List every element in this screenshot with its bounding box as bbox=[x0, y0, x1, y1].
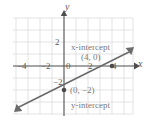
y-intercept-coordinates: (0, −2) bbox=[70, 86, 95, 95]
x-intercept-coordinates: (4, 0) bbox=[81, 53, 101, 62]
y-tick-label-neg2: −2 bbox=[53, 78, 63, 87]
y-axis-label: y bbox=[65, 2, 69, 12]
y-intercept-marker bbox=[62, 88, 67, 93]
x-axis bbox=[13, 63, 140, 70]
y-tick-label-pos2: 2 bbox=[55, 38, 60, 47]
x-intercept-label: x-intercept bbox=[71, 43, 110, 52]
x-tick-label-neg2: −2 bbox=[41, 62, 51, 71]
graph-figure: −4 −2 0 2 4 2 −2 x y x-intercept (4, 0) … bbox=[0, 0, 149, 125]
x-tick-label-pos2: 2 bbox=[88, 62, 93, 71]
y-intercept-label: y-intercept bbox=[71, 101, 110, 110]
x-tick-label-pos4: 4 bbox=[112, 62, 117, 71]
x-tick-label-zero: 0 bbox=[66, 62, 71, 71]
x-tick-label-neg4: −4 bbox=[17, 62, 27, 71]
x-axis-label: x bbox=[138, 59, 142, 69]
